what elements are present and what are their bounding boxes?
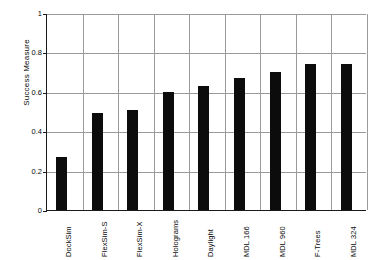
y-tick-label: 0.8 (10, 49, 42, 57)
gridline-vertical (367, 14, 368, 210)
bars-layer (47, 14, 366, 210)
x-tick-label: MDL 166 (242, 197, 251, 257)
x-tick-label: F-Trees (313, 197, 322, 257)
x-tick-label: DockSim (64, 197, 73, 257)
x-tick-label: FlexSim-X (135, 197, 144, 257)
bar (163, 92, 174, 210)
bar (341, 64, 352, 210)
bar (92, 113, 103, 210)
x-tick-label: MDL 324 (349, 197, 358, 257)
y-tick-label: 1 (10, 10, 42, 18)
x-tick-label: Holograms (171, 197, 180, 257)
y-axis-tick-labels: 00.20.40.60.81 (10, 14, 42, 211)
y-tick-label: 0.4 (10, 128, 42, 136)
bar (305, 64, 316, 210)
bar-chart: Success Measure 00.20.40.60.81 DockSimFl… (0, 0, 374, 260)
plot-area (46, 14, 366, 211)
bar (234, 78, 245, 210)
x-axis-tick-labels: DockSimFlexSim-SFlexSim-XHologramsDaylig… (46, 213, 366, 259)
bar (198, 86, 209, 210)
bar (270, 72, 281, 210)
x-tick-label: FlexSim-S (100, 197, 109, 257)
x-tick-label: MDL 960 (278, 197, 287, 257)
y-tick-label: 0.6 (10, 89, 42, 97)
x-tick-label: Daylight (206, 197, 215, 257)
y-tick-label: 0.2 (10, 168, 42, 176)
y-tick-mark (43, 211, 47, 212)
bar (127, 110, 138, 210)
y-tick-label: 0 (10, 207, 42, 215)
